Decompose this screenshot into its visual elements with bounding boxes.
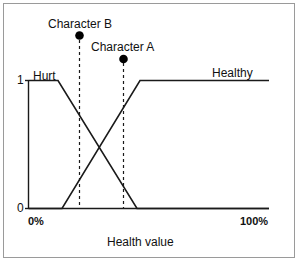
hurt-series-label: Hurt bbox=[33, 70, 56, 82]
healthy-series-label: Healthy bbox=[212, 67, 253, 79]
x-axis-title: Health value bbox=[107, 236, 174, 248]
healthy-membership-curve bbox=[29, 81, 270, 209]
character-a-label: Character A bbox=[91, 41, 154, 53]
character-b-marker[interactable] bbox=[75, 31, 84, 40]
y-tick-label-one: 1 bbox=[17, 74, 24, 86]
x-tick-label-hundred-percent: 100% bbox=[240, 216, 268, 227]
figure-container: Character B Character A Hurt Healthy 1 0… bbox=[0, 0, 302, 265]
x-tick-label-zero-percent: 0% bbox=[28, 216, 44, 227]
character-b-label: Character B bbox=[48, 18, 112, 30]
character-a-marker[interactable] bbox=[119, 55, 128, 64]
y-tick-label-zero: 0 bbox=[17, 202, 24, 214]
hurt-membership-curve bbox=[29, 81, 270, 209]
